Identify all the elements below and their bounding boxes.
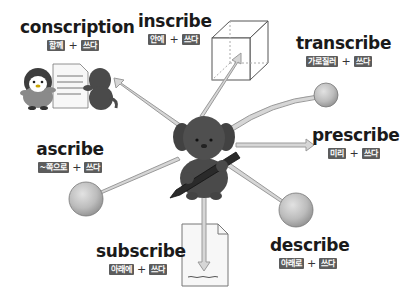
dog-with-pen-icon — [170, 116, 240, 200]
conscription-illustration — [20, 64, 116, 110]
term-subscribe: subscribe 아래에 + 쓰다 — [96, 242, 180, 275]
prefix-badge: 가로질러 — [306, 56, 338, 67]
root-badge: 쓰다 — [84, 162, 102, 173]
term-word: subscribe — [96, 242, 180, 261]
plus-sign: + — [72, 162, 81, 173]
prefix-badge: 아래로 — [279, 258, 304, 269]
arrow-to-transcribe — [228, 95, 318, 132]
plus-sign: + — [137, 264, 146, 275]
term-formula: 아래에 + 쓰다 — [96, 264, 180, 275]
term-inscribe: inscribe 안에 + 쓰다 — [138, 12, 210, 45]
prefix-badge: ~쪽으로 — [38, 162, 70, 173]
term-word: conscription — [20, 18, 126, 37]
root-badge: 쓰다 — [182, 34, 200, 45]
plus-sign: + — [341, 56, 350, 67]
term-conscription: conscription 함께 + 쓰다 — [20, 18, 126, 51]
scribe-word-family-diagram: conscription 함께 + 쓰다 inscribe 안에 + 쓰다 tr… — [0, 0, 407, 303]
ascribe-ball — [69, 182, 103, 216]
term-word: transcribe — [296, 34, 382, 53]
root-badge: 쓰다 — [362, 148, 380, 159]
term-formula: 미리 + 쓰다 — [312, 148, 396, 159]
plus-sign: + — [307, 258, 316, 269]
term-describe: describe 아래로 + 쓰다 — [270, 236, 346, 269]
root-badge: 쓰다 — [81, 40, 99, 51]
term-formula: ~쪽으로 + 쓰다 — [30, 162, 110, 173]
term-word: prescribe — [312, 126, 396, 145]
root-badge: 쓰다 — [354, 56, 372, 67]
arrow-to-conscription — [114, 78, 182, 128]
prefix-badge: 아래에 — [109, 264, 134, 275]
term-word: inscribe — [138, 12, 210, 31]
term-ascribe: ascribe ~쪽으로 + 쓰다 — [30, 140, 110, 173]
root-badge: 쓰다 — [319, 258, 337, 269]
penguin-icon — [20, 68, 56, 110]
term-transcribe: transcribe 가로질러 + 쓰다 — [296, 34, 382, 67]
describe-ball — [279, 193, 313, 227]
term-prescribe: prescribe 미리 + 쓰다 — [312, 126, 396, 159]
plus-sign: + — [68, 40, 77, 51]
plus-sign: + — [169, 34, 178, 45]
prefix-badge: 미리 — [328, 148, 346, 159]
term-formula: 아래로 + 쓰다 — [270, 258, 346, 269]
arrow-to-prescribe — [236, 139, 314, 151]
plus-sign: + — [349, 148, 358, 159]
term-formula: 가로질러 + 쓰다 — [296, 56, 382, 67]
transcribe-ball — [314, 83, 338, 107]
prefix-badge: 함께 — [47, 40, 65, 51]
term-formula: 안에 + 쓰다 — [138, 34, 210, 45]
prefix-badge: 안에 — [148, 34, 166, 45]
term-formula: 함께 + 쓰다 — [20, 40, 126, 51]
cube-icon — [212, 21, 268, 80]
root-badge: 쓰다 — [149, 264, 167, 275]
term-word: ascribe — [30, 140, 110, 159]
term-word: describe — [270, 236, 346, 255]
